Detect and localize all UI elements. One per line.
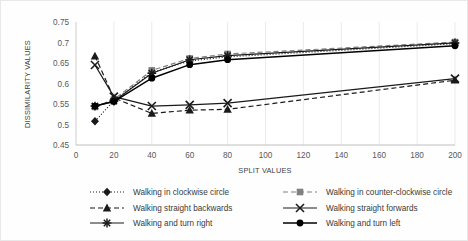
y-axis-title: DISSIMILARITY VALUES [23, 40, 32, 128]
legend-entry[interactable]: Walking and turn right [90, 219, 213, 229]
data-point-marker [92, 103, 99, 110]
legend-label: Walking straight backwards [133, 204, 232, 213]
data-point-marker [186, 61, 193, 68]
data-point-marker [452, 42, 459, 49]
x-axis-tick-label: 40 [147, 151, 157, 160]
legend-entry[interactable]: Walking in counter-clockwise circle [283, 188, 453, 197]
y-axis-tick-label: 0.65 [53, 59, 69, 68]
data-point-marker [224, 56, 231, 63]
legend-label: Walking and turn right [133, 219, 213, 228]
y-axis-tick-labels: 0.750.70.650.60.550.50.45 [53, 18, 69, 150]
legend-entry[interactable]: Walking straight backwards [90, 204, 232, 214]
data-point-marker [297, 189, 304, 196]
x-axis-title: SPLIT VALUES [238, 166, 291, 175]
y-axis-tick-label: 0.5 [58, 121, 70, 130]
x-axis-tick-label: 20 [109, 151, 119, 160]
y-axis-tick-label: 0.75 [53, 18, 69, 27]
legend-label: Walking straight forwards [326, 204, 418, 213]
data-point-marker [103, 219, 112, 228]
x-axis-tick-label: 100 [259, 151, 273, 160]
chart-legend: Walking in clockwise circleWalking in co… [90, 188, 453, 228]
x-axis-tick-labels: 020406080100120140160180200 [74, 151, 463, 160]
x-axis-tick-label: 180 [410, 151, 424, 160]
legend-entry[interactable]: Walking and turn left [283, 219, 401, 228]
x-axis-tick-label: 160 [372, 151, 386, 160]
chart-plot-area: 0.750.70.650.60.550.50.45 02040608010012… [0, 0, 468, 241]
y-axis-tick-label: 0.45 [53, 141, 69, 150]
x-axis-tick-label: 120 [297, 151, 311, 160]
data-point-marker [111, 98, 118, 105]
legend-label: Walking and turn left [326, 219, 401, 228]
legend-entry[interactable]: Walking straight forwards [283, 204, 418, 213]
data-point-marker [148, 75, 155, 82]
x-axis-tick-label: 140 [334, 151, 348, 160]
x-axis-tick-label: 80 [223, 151, 233, 160]
y-axis-tick-label: 0.7 [58, 39, 70, 48]
legend-label: Walking in clockwise circle [133, 188, 230, 197]
chart-container: 0.750.70.650.60.550.50.45 02040608010012… [0, 0, 468, 241]
x-axis-tick-label: 60 [185, 151, 195, 160]
y-axis-tick-label: 0.55 [53, 100, 69, 109]
data-point-marker [103, 188, 111, 196]
legend-label: Walking in counter-clockwise circle [326, 188, 453, 197]
x-axis-tick-label: 200 [448, 151, 462, 160]
legend-entry[interactable]: Walking in clockwise circle [90, 188, 230, 197]
data-point-marker [297, 220, 304, 227]
x-axis-tick-label: 0 [74, 151, 79, 160]
y-axis-tick-label: 0.6 [58, 80, 70, 89]
